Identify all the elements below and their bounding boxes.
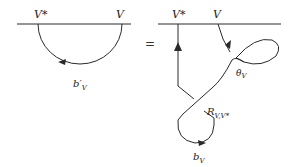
twist-label: θV — [236, 68, 247, 80]
up-arrow-icon — [174, 42, 182, 51]
string-diagram: V* V b′V = V* V θV RV,V* bV — [0, 0, 288, 167]
right-label-dual: V* — [172, 8, 186, 21]
down-arrow-icon — [225, 40, 231, 49]
diagram-svg: V* V b′V = V* V θV RV,V* bV — [0, 0, 288, 167]
twist-strand — [218, 24, 230, 52]
right-label-object: V — [213, 8, 222, 21]
coev-label: bV — [193, 151, 205, 165]
left-label-dual: V* — [34, 8, 48, 21]
braiding-label: RV,V* — [206, 106, 230, 120]
left-morphism-label: b′V — [73, 78, 88, 92]
left-cup-arc — [38, 24, 122, 64]
equals-sign: = — [145, 37, 155, 51]
dual-strand — [178, 24, 194, 99]
left-label-object: V — [116, 8, 125, 21]
